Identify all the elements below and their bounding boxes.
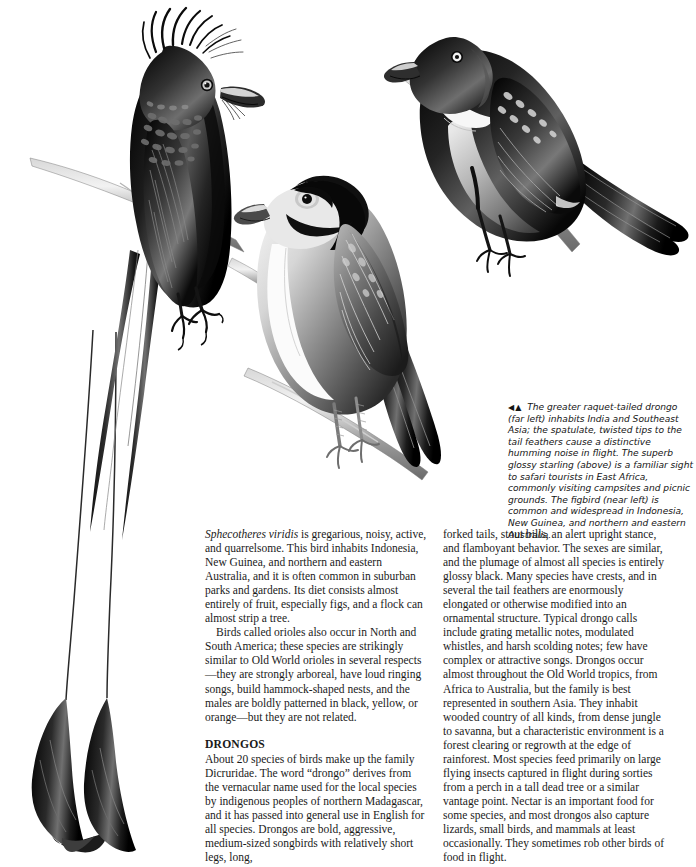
paragraph-orioles: Birds called orioles also occur in North… (205, 625, 427, 723)
illustration-caption: ◀▲ The greater raquet-tailed drongo (far… (508, 402, 694, 541)
section-heading-drongos: DRONGOS (205, 737, 427, 752)
superb-glossy-starling-illustration (384, 37, 689, 276)
caption-arrows-icon: ◀▲ (508, 403, 522, 412)
body-column-left: Sphecotheres viridis is gregarious, nois… (205, 527, 427, 864)
paragraph-drongos-continued: forked tails, stout bills, an alert upri… (443, 527, 665, 864)
scientific-name: Sphecotheres viridis (205, 528, 298, 540)
figbird-illustration (228, 176, 441, 480)
body-column-right: forked tails, stout bills, an alert upri… (443, 527, 665, 864)
article-body: Sphecotheres viridis is gregarious, nois… (205, 527, 685, 865)
paragraph-figbird: Sphecotheres viridis is gregarious, nois… (205, 527, 427, 625)
paragraph-drongos-intro: About 20 species of birds make up the fa… (205, 752, 427, 864)
caption-text: The greater raquet-tailed drongo (far le… (508, 402, 693, 540)
paragraph-figbird-rest: is gregarious, noisy, active, and quarre… (205, 528, 426, 624)
